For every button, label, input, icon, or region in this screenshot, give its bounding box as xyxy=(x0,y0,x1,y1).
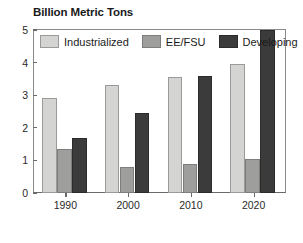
chart-title: Billion Metric Tons xyxy=(33,6,133,18)
y-axis-tick-label: 1 xyxy=(22,155,28,166)
legend-label-eefsu: EE/FSU xyxy=(166,36,206,48)
legend-label-developing: Developing xyxy=(243,36,298,48)
legend-item-developing: Developing xyxy=(219,35,303,48)
bar-developing xyxy=(198,76,213,193)
bar-developing xyxy=(260,30,275,193)
y-axis: 012345 xyxy=(8,0,28,243)
x-axis-tick-label: 1990 xyxy=(54,199,77,211)
bar-developing xyxy=(72,138,87,193)
bar-developing xyxy=(135,113,150,193)
bar-eefsu xyxy=(245,159,260,193)
x-axis-tick-label: 2000 xyxy=(116,199,139,211)
x-axis-tick-label: 2010 xyxy=(179,199,202,211)
bar-eefsu xyxy=(183,164,198,193)
bar-group xyxy=(222,30,285,193)
legend-item-industrialized: Industrialized xyxy=(40,35,142,48)
x-axis-tick-label: 2020 xyxy=(242,199,265,211)
legend-label-industrialized: Industrialized xyxy=(64,36,129,48)
bar-group xyxy=(34,30,97,193)
legend-swatch-developing-icon xyxy=(219,35,238,48)
legend-swatch-eefsu-icon xyxy=(142,35,161,48)
y-axis-tick-label: 2 xyxy=(22,123,28,134)
y-axis-tick-label: 0 xyxy=(22,188,28,199)
legend-item-eefsu: EE/FSU xyxy=(142,35,219,48)
y-axis-tick-label: 3 xyxy=(22,90,28,101)
chart-legend: Industrialized EE/FSU Developing xyxy=(40,35,303,48)
x-axis-tick-mark xyxy=(191,193,192,197)
bar-group xyxy=(97,30,160,193)
bar-chart: Billion Metric Tons 012345 1990200020102… xyxy=(0,0,303,243)
x-axis-tick-mark xyxy=(128,193,129,197)
bar-group xyxy=(160,30,223,193)
x-axis-tick-mark xyxy=(65,193,66,197)
bar-eefsu xyxy=(120,167,135,193)
legend-swatch-industrialized-icon xyxy=(40,35,59,48)
bar-industrialized xyxy=(230,64,245,193)
bar-industrialized xyxy=(105,85,120,193)
bars-container xyxy=(34,30,285,193)
bar-industrialized xyxy=(42,98,57,193)
y-axis-tick-label: 5 xyxy=(22,25,28,36)
bar-industrialized xyxy=(168,77,183,193)
y-axis-tick-label: 4 xyxy=(22,57,28,68)
bar-eefsu xyxy=(57,149,72,193)
x-axis-tick-mark xyxy=(254,193,255,197)
